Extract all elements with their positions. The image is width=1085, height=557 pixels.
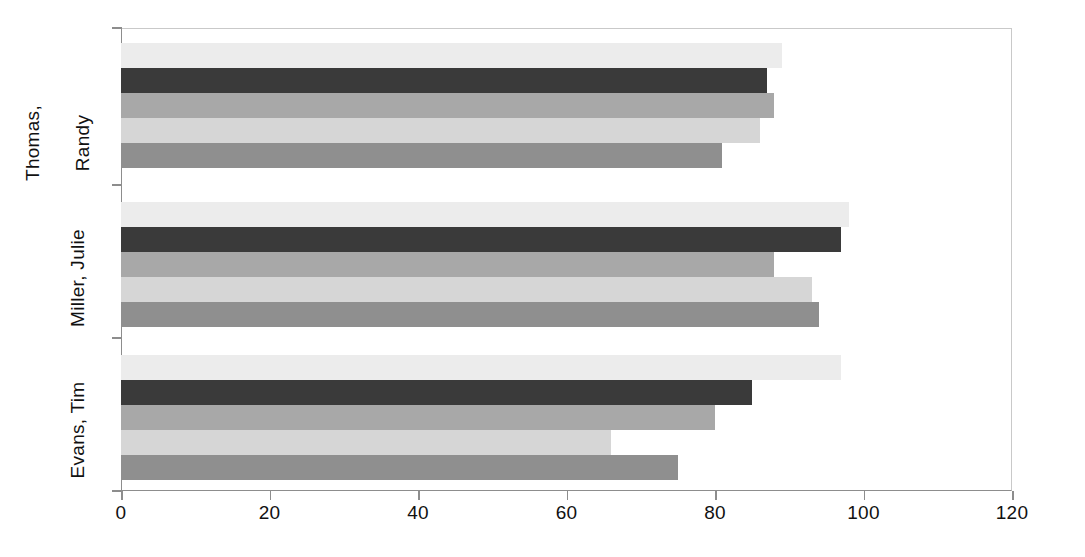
category-label-thomas-randy: Thomas, Randy (0, 68, 95, 218)
bar-series-1-2 (121, 202, 849, 227)
x-axis-tick-label: 40 (378, 502, 458, 524)
category-axis-tick (112, 184, 122, 186)
category-label-miller-julie: Miller, Julie (40, 203, 90, 353)
bar-series-2-1 (121, 68, 767, 93)
x-axis-tick (418, 491, 420, 500)
bar-series-4-2 (121, 277, 812, 302)
category-label-line: Evans, Tim (67, 382, 88, 479)
bar-chart: Thomas, Randy Miller, Julie Evans, Tim 0… (0, 0, 1085, 557)
x-axis-tick (715, 491, 717, 500)
bar-series-1-3 (121, 355, 841, 380)
x-axis-tick-label: 100 (824, 502, 904, 524)
x-axis-tick (864, 491, 866, 500)
bar-series-4-3 (121, 430, 611, 455)
category-axis-tick (112, 337, 122, 339)
category-label-line: Randy (72, 115, 93, 171)
bar-series-5-3 (121, 455, 678, 480)
x-axis-tick-label: 20 (230, 502, 310, 524)
x-axis-tick (567, 491, 569, 500)
x-axis-tick-label: 0 (81, 502, 161, 524)
bar-series-3-2 (121, 252, 774, 277)
bar-series-3-1 (121, 93, 774, 118)
bar-series-5-1 (121, 143, 722, 168)
x-axis-tick (121, 491, 123, 500)
category-label-line: Miller, Julie (67, 229, 88, 327)
x-axis-tick-label: 80 (675, 502, 755, 524)
category-axis-tick (112, 27, 122, 29)
bar-series-2-2 (121, 227, 841, 252)
x-axis-tick-label: 60 (527, 502, 607, 524)
bar-series-3-3 (121, 405, 715, 430)
x-axis-tick-label: 120 (972, 502, 1052, 524)
x-axis-tick (270, 491, 272, 500)
x-axis-tick (1012, 491, 1014, 500)
bar-series-1-1 (121, 43, 782, 68)
bar-series-5-2 (121, 302, 819, 327)
category-label-evans-tim: Evans, Tim (40, 355, 90, 505)
bar-series-4-1 (121, 118, 760, 143)
category-label-line: Thomas, (22, 105, 43, 181)
bar-series-2-3 (121, 380, 752, 405)
